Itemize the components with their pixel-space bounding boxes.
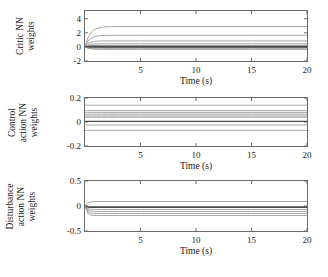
- x-tick-label: 10: [184, 150, 208, 160]
- y-tick-label: 0: [51, 201, 81, 211]
- x-axis-label: Time (s): [161, 161, 231, 172]
- y-tick-label: -0.5: [51, 226, 81, 236]
- y-axis-label-line: weights: [27, 146, 38, 266]
- x-tick-label: 20: [295, 150, 319, 160]
- y-tick-label: 2: [51, 28, 81, 38]
- y-axis-label-line: Disturbance: [5, 146, 16, 266]
- x-axis-label: Time (s): [161, 76, 231, 87]
- y-tick-label: 0: [51, 117, 81, 127]
- x-tick-label: 20: [295, 65, 319, 75]
- x-tick-label: 15: [240, 65, 264, 75]
- x-tick-label: 10: [184, 65, 208, 75]
- x-tick-label: 5: [129, 235, 153, 245]
- plot-canvas: [85, 11, 307, 61]
- y-tick-label: -0.2: [51, 141, 81, 151]
- x-axis-label: Time (s): [161, 246, 231, 257]
- y-tick-label: 0.2: [51, 93, 81, 103]
- y-tick-label: 0: [51, 42, 81, 52]
- x-tick-label: 20: [295, 235, 319, 245]
- x-tick-label: 15: [240, 235, 264, 245]
- plot-area: [84, 10, 308, 62]
- figure-critic-control-disturbance-weights: -20245101520Time (s)Critic NNweights -0.…: [0, 0, 328, 277]
- y-tick-label: 0.5: [51, 176, 81, 186]
- x-tick-label: 5: [129, 150, 153, 160]
- x-tick-label: 5: [129, 65, 153, 75]
- plot-area: [84, 180, 308, 232]
- y-tick-label: -2: [51, 56, 81, 66]
- y-axis-label: Disturbanceaction NNweights: [5, 146, 38, 266]
- series-line-weight-1: [85, 202, 307, 207]
- y-tick-label: 4: [51, 14, 81, 24]
- y-axis-label-line: action NN: [16, 146, 27, 266]
- x-tick-label: 15: [240, 150, 264, 160]
- plot-area: [84, 97, 308, 147]
- plot-canvas: [85, 98, 307, 146]
- x-tick-label: 10: [184, 235, 208, 245]
- series-line-weight-2: [85, 206, 307, 207]
- plot-canvas: [85, 181, 307, 231]
